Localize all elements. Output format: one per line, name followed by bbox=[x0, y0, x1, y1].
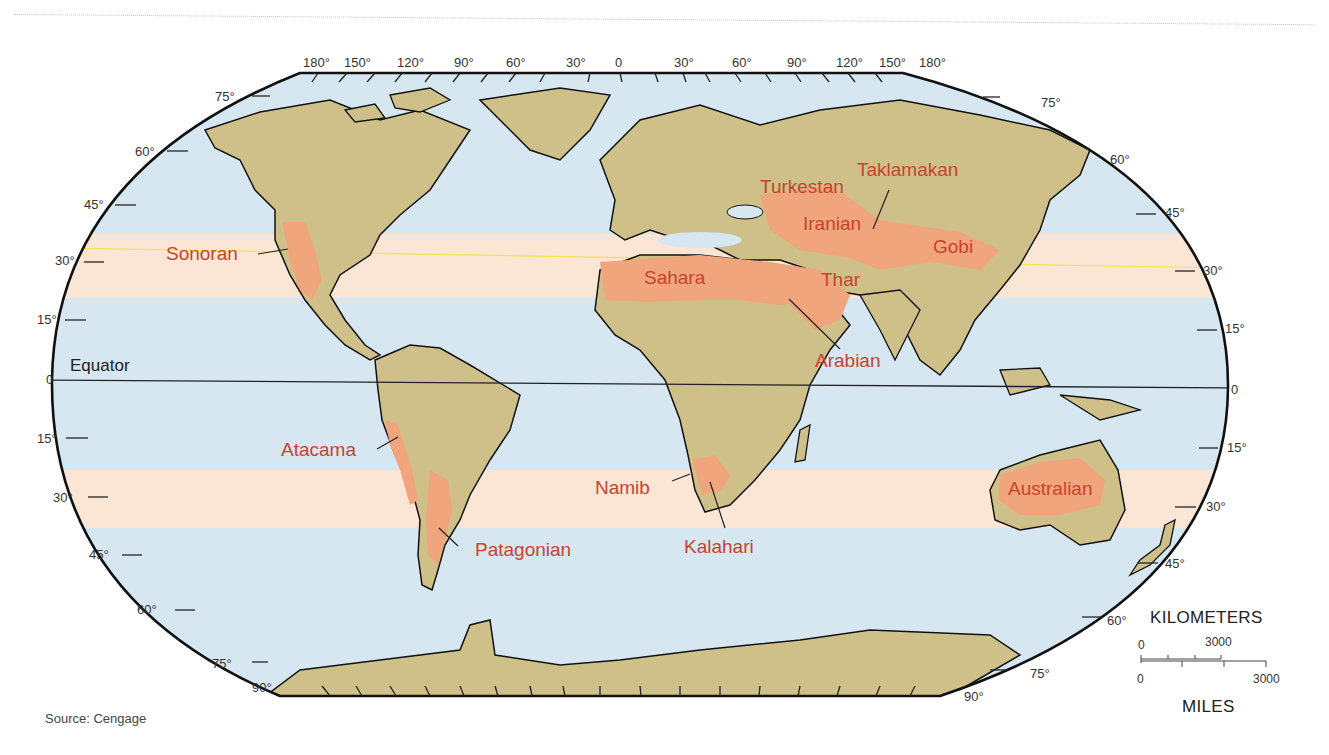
lat-label: 75° bbox=[1041, 96, 1061, 109]
lat-label: 15° bbox=[1225, 322, 1245, 335]
lon-label: 150° bbox=[879, 56, 906, 69]
lon-label: 30° bbox=[566, 56, 586, 69]
lon-label: 180° bbox=[303, 56, 330, 69]
lat-label: 30° bbox=[53, 491, 73, 504]
lat-label: 45° bbox=[84, 198, 104, 211]
lat-label: 90° bbox=[252, 681, 272, 694]
lon-label: 150° bbox=[344, 56, 371, 69]
southern-dry-belt bbox=[0, 470, 1329, 528]
desert-label-atacama: Atacama bbox=[281, 440, 356, 459]
desert-label-arabian: Arabian bbox=[815, 351, 881, 370]
scale-km-title: KILOMETERS bbox=[1150, 608, 1263, 628]
lon-label: 120° bbox=[397, 56, 424, 69]
lat-label: 75° bbox=[215, 90, 235, 103]
scale-km-start: 0 bbox=[1138, 638, 1145, 652]
lat-label: 45° bbox=[89, 548, 109, 561]
equator-label: Equator bbox=[70, 357, 130, 374]
desert-label-namib: Namib bbox=[595, 478, 650, 497]
lat-label: 15° bbox=[37, 313, 57, 326]
lat-label: 45° bbox=[1165, 206, 1185, 219]
desert-label-sahara: Sahara bbox=[644, 268, 705, 287]
lon-label: 0 bbox=[615, 56, 622, 69]
lat-label: 60° bbox=[135, 145, 155, 158]
desert-label-turkestan: Turkestan bbox=[760, 177, 844, 196]
lon-label: 180° bbox=[919, 56, 946, 69]
lon-label: 60° bbox=[506, 56, 526, 69]
lon-label: 90° bbox=[454, 56, 474, 69]
lat-label: 15° bbox=[37, 432, 57, 445]
desert-label-patagonian: Patagonian bbox=[475, 540, 571, 559]
desert-label-iranian: Iranian bbox=[803, 214, 861, 233]
lat-label: 0 bbox=[1231, 383, 1238, 396]
world-map bbox=[0, 0, 1329, 755]
scale-mi-start: 0 bbox=[1137, 672, 1144, 686]
lat-label: 30° bbox=[1203, 264, 1223, 277]
lon-label: 60° bbox=[732, 56, 752, 69]
lat-label: 75° bbox=[1030, 667, 1050, 680]
lon-label: 90° bbox=[787, 56, 807, 69]
lat-label: 75° bbox=[212, 657, 232, 670]
lat-label: 90° bbox=[964, 690, 984, 703]
lon-label: 30° bbox=[674, 56, 694, 69]
desert-label-taklamakan: Taklamakan bbox=[857, 160, 958, 179]
desert-label-kalahari: Kalahari bbox=[684, 537, 754, 556]
desert-label-thar: Thar bbox=[821, 270, 860, 289]
source-credit: Source: Cengage bbox=[45, 711, 146, 726]
lat-label: 30° bbox=[55, 254, 75, 267]
scale-mi-end: 3000 bbox=[1253, 672, 1280, 686]
desert-label-australian: Australian bbox=[1008, 479, 1093, 498]
lat-label: 15° bbox=[1227, 441, 1247, 454]
lat-label: 0 bbox=[46, 373, 53, 386]
desert-label-sonoran: Sonoran bbox=[166, 244, 238, 263]
lat-label: 60° bbox=[1107, 614, 1127, 627]
desert-label-gobi: Gobi bbox=[933, 237, 973, 256]
lat-label: 60° bbox=[137, 603, 157, 616]
scale-km-end: 3000 bbox=[1205, 635, 1232, 649]
scale-mi-title: MILES bbox=[1182, 697, 1235, 717]
lat-label: 45° bbox=[1165, 557, 1185, 570]
lon-label: 120° bbox=[836, 56, 863, 69]
lat-label: 60° bbox=[1110, 153, 1130, 166]
lat-label: 30° bbox=[1206, 500, 1226, 513]
